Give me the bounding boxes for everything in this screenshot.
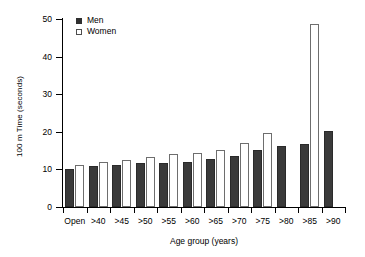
x-axis-tick — [345, 208, 346, 213]
bar-men-gt85 — [300, 144, 309, 207]
y-axis-tick-label: 30 — [30, 90, 52, 99]
y-axis-tick — [56, 207, 63, 208]
bar-women-gt60 — [193, 153, 202, 207]
x-axis-tick — [157, 208, 158, 213]
legend-swatch-women-icon — [76, 29, 82, 35]
bar-men-gt70 — [230, 156, 239, 207]
legend-label-men: Men — [87, 15, 104, 26]
x-axis-tick — [298, 208, 299, 213]
y-axis-tick-label: 0 — [30, 203, 52, 212]
bar-men-gt40 — [89, 166, 98, 207]
bar-men-gt65 — [206, 159, 215, 208]
chart-figure: 100 m Time (seconds) 01020304050 Open>40… — [0, 0, 365, 257]
bar-men-gt45 — [112, 165, 121, 207]
x-axis-tick — [251, 208, 252, 213]
x-axis-title: Age group (years) — [63, 236, 345, 246]
chart-legend: Men Women — [76, 15, 116, 37]
bar-women-gt65 — [216, 150, 225, 207]
x-axis-tick — [63, 208, 64, 213]
bar-women-gt40 — [99, 162, 108, 207]
bar-men-gt90 — [324, 131, 333, 207]
y-axis-tick — [56, 94, 63, 95]
x-axis-tick — [322, 208, 323, 213]
x-axis-tick — [228, 208, 229, 213]
bars-layer — [63, 19, 345, 207]
y-axis-tick-label: 50 — [30, 15, 52, 24]
legend-label-women: Women — [87, 26, 116, 37]
bar-men-gt55 — [159, 163, 168, 207]
bar-women-gt75 — [263, 133, 272, 207]
bar-men-gt60 — [183, 162, 192, 207]
legend-swatch-men-icon — [76, 18, 82, 24]
legend-item-women: Women — [76, 26, 116, 37]
y-axis-tick — [56, 19, 63, 20]
y-axis-tick — [56, 132, 63, 133]
y-axis-title: 100 m Time (seconds) — [15, 42, 24, 192]
x-axis-tick — [204, 208, 205, 213]
y-axis-tick — [56, 57, 63, 58]
x-axis-tick — [275, 208, 276, 213]
bar-women-gt55 — [169, 154, 178, 207]
bar-women-gt45 — [122, 160, 131, 207]
y-axis-tick-label: 40 — [30, 53, 52, 62]
x-axis-tick — [181, 208, 182, 213]
bar-women-gt70 — [240, 143, 249, 207]
y-axis-tick — [56, 169, 63, 170]
x-axis-tick — [134, 208, 135, 213]
y-axis-tick-label: 10 — [30, 165, 52, 174]
x-axis-tick-label: >90 — [313, 217, 353, 226]
bar-women-gt50 — [146, 157, 155, 207]
x-axis-tick — [87, 208, 88, 213]
y-axis-tick-label: 20 — [30, 128, 52, 137]
bar-women-gt85 — [310, 24, 319, 207]
bar-men-gt75 — [253, 150, 262, 207]
bar-men-gt80 — [277, 146, 286, 207]
bar-men-Open — [65, 169, 74, 207]
bar-women-Open — [75, 165, 84, 207]
bar-men-gt50 — [136, 163, 145, 207]
legend-item-men: Men — [76, 15, 116, 26]
x-axis-tick — [110, 208, 111, 213]
